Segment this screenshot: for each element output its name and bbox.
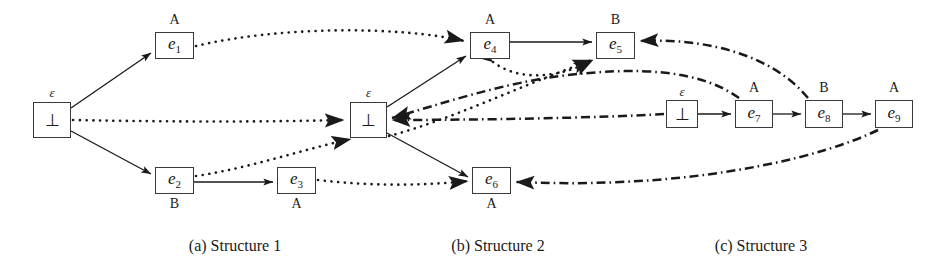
edge-s2-bot-to-e6 (387, 133, 468, 177)
edge-m-bot1-bot2 (73, 120, 344, 122)
node-label: e7 (747, 104, 760, 124)
edge-s1-bot-to-e2 (71, 131, 151, 174)
node-tag-s3-e9: A (875, 80, 913, 96)
node-label: e3 (290, 170, 303, 190)
edge-m-e1-e4 (196, 30, 464, 46)
node-tag-s2-bot: ε (350, 85, 387, 101)
node-label: e9 (887, 104, 900, 124)
node-tag-s2-e4: A (470, 12, 510, 28)
node-tag-s3-e7: A (735, 80, 773, 96)
caption-structure-2: (b) Structure 2 (413, 237, 583, 255)
node-tag-s1-e2: B (155, 196, 194, 212)
node-tag-s1-bot: ε (33, 85, 71, 101)
node-s2-e4[interactable]: e4 (470, 32, 510, 59)
node-tag-s3-e8: B (805, 80, 843, 96)
event-structure-figure: ⊥ ε e1 A e2 B e3 A ⊥ ε e4 A e5 B e6 A ⊥ … (0, 0, 945, 277)
node-s1-e2[interactable]: e2 (155, 167, 194, 194)
node-label: ⊥ (361, 112, 376, 129)
edge-m-e3-e6 (318, 180, 468, 185)
node-label: e4 (483, 35, 496, 55)
node-label: e1 (168, 35, 181, 55)
node-label: e2 (168, 170, 181, 190)
node-label: e8 (817, 104, 830, 124)
edge-m-bot3-bot2 (392, 114, 664, 120)
node-s3-e8[interactable]: e8 (805, 100, 843, 128)
edge-m-e9-e6 (516, 130, 878, 183)
node-s1-e1[interactable]: e1 (155, 32, 194, 59)
caption-structure-1: (a) Structure 1 (150, 237, 320, 255)
node-label: e5 (609, 35, 622, 55)
edge-s1-bot-to-e1 (71, 53, 151, 108)
node-tag-s1-e3: A (277, 196, 316, 212)
edge-m-e4-e5-lower (493, 60, 593, 75)
node-s3-e7[interactable]: e7 (735, 100, 773, 128)
node-s3-e9[interactable]: e9 (875, 100, 913, 128)
node-label: ⊥ (45, 112, 60, 129)
node-tag-s2-e5: B (596, 12, 635, 28)
node-s3-bot[interactable]: ⊥ (666, 100, 698, 128)
node-tag-s1-e1: A (155, 12, 194, 28)
caption-structure-3: (c) Structure 3 (676, 237, 846, 255)
node-label: ⊥ (675, 106, 690, 123)
node-tag-s2-e6: A (472, 196, 511, 212)
node-s2-bot[interactable]: ⊥ (350, 102, 387, 138)
node-s1-e3[interactable]: e3 (277, 167, 316, 194)
node-tag-s3-bot: ε (666, 84, 698, 100)
node-s2-e5[interactable]: e5 (596, 32, 635, 59)
node-s2-e6[interactable]: e6 (472, 167, 511, 194)
structure-1-edges (71, 53, 273, 182)
node-s1-bot[interactable]: ⊥ (33, 102, 71, 138)
node-label: e6 (485, 170, 498, 190)
edge-m-bot2-e5 (389, 60, 592, 136)
edge-m-e2-bot2 (196, 139, 351, 176)
